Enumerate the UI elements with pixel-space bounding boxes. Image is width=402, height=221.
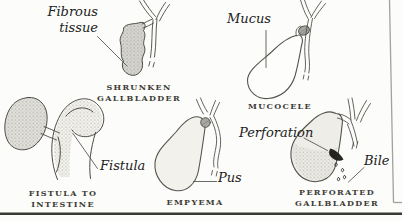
mucus-label: Mucus	[227, 11, 271, 27]
fistula-caption-line2: INTESTINE	[13, 199, 113, 210]
fibrous-tissue-label: Fibrous tissue	[27, 4, 98, 36]
fistula-caption-line1: FISTULA TO	[13, 188, 113, 199]
perforated-caption-line1: PERFORATED	[287, 187, 387, 198]
bile-pointer-line	[349, 168, 365, 183]
shrunken-caption-line1: SHRUNKEN	[89, 82, 189, 93]
fibrous-tissue-label-line1: Fibrous	[27, 4, 98, 20]
perforated-caption-line2: GALLBLADDER	[287, 198, 387, 209]
bile-label: Bile	[364, 153, 390, 169]
mucocele-caption: MUCOCELE	[230, 101, 330, 112]
fistula-caption: FISTULA TO INTESTINE	[13, 188, 113, 209]
empyema-gallbladder-shape	[155, 117, 205, 191]
fistula-figure	[5, 97, 104, 179]
perforation-label: Perforation	[239, 125, 313, 141]
perforated-gallbladder-caption: PERFORATED GALLBLADDER	[287, 187, 387, 208]
empyema-figure	[155, 98, 221, 191]
fistula-label: Fistula	[100, 158, 145, 174]
medical-diagram-page: Fibrous tissue Mucus Fistula Pus Perfora…	[0, 0, 402, 221]
shrunken-gallbladder-caption: SHRUNKEN GALLBLADDER	[89, 82, 189, 103]
fibrous-tissue-label-line2: tissue	[27, 20, 98, 36]
shrunken-sac-stipple	[120, 22, 145, 75]
shrunken-caption-line2: GALLBLADDER	[89, 93, 189, 104]
empyema-caption: EMPYEMA	[145, 197, 245, 208]
fistula-sac-stipple	[5, 97, 47, 149]
mucocele-bile-duct-lines	[301, 0, 326, 80]
right-frame-vertical-line	[390, 0, 394, 203]
shrunken-gallbladder-figure	[98, 0, 170, 75]
pus-label: Pus	[218, 170, 242, 186]
mucocele-gallbladder-shape	[248, 35, 303, 99]
